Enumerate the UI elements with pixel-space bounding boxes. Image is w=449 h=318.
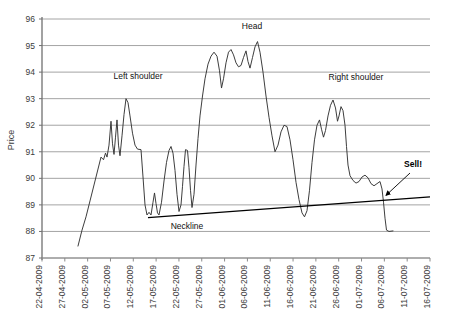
x-tick-label-06-06-2009: 06-06-2009 [239, 265, 249, 309]
chart-container: 96959493929190898887 22-04-200927-04-200… [0, 0, 449, 318]
y-tick-label-90: 90 [26, 173, 36, 183]
x-tick-label-26-06-2009: 26-06-2009 [331, 265, 341, 309]
y-tick-label-93: 93 [26, 94, 36, 104]
x-tick-label-16-06-2009: 16-06-2009 [285, 265, 295, 309]
y-tick-label-92: 92 [26, 120, 36, 130]
annotation-sell: Sell! [404, 159, 422, 169]
y-tick-label-89: 89 [26, 200, 36, 210]
x-tick-label-16-07-2009: 16-07-2009 [422, 265, 432, 309]
head-and-shoulders-price-chart: 96959493929190898887 22-04-200927-04-200… [0, 0, 449, 318]
x-tick-label-06-07-2009: 06-07-2009 [376, 265, 386, 309]
y-tick-label-88: 88 [26, 226, 36, 236]
annotation-neckline: Neckline [171, 221, 204, 231]
y-tick-label-95: 95 [26, 41, 36, 51]
y-tick-label-94: 94 [26, 67, 36, 77]
annotation-left-shoulder: Left shoulder [113, 71, 162, 81]
x-tick-label-02-05-2009: 02-05-2009 [80, 265, 90, 309]
x-tick-label-07-05-2009: 07-05-2009 [102, 265, 112, 309]
annotation-right-shoulder: Right shoulder [329, 72, 384, 82]
y-axis-title: Price [6, 130, 16, 151]
x-tick-label-01-06-2009: 01-06-2009 [217, 265, 227, 309]
x-tick-label-01-07-2009: 01-07-2009 [354, 265, 364, 309]
x-tick-label-21-06-2009: 21-06-2009 [308, 265, 318, 309]
y-tick-label-96: 96 [26, 14, 36, 24]
y-tick-label-91: 91 [26, 147, 36, 157]
x-tick-label-11-07-2009: 11-07-2009 [399, 265, 409, 308]
annotation-head: Head [242, 21, 263, 31]
x-tick-label-27-05-2009: 27-05-2009 [194, 265, 204, 309]
x-tick-label-11-06-2009: 11-06-2009 [262, 265, 272, 308]
y-tick-label-87: 87 [26, 253, 36, 263]
x-tick-label-17-05-2009: 17-05-2009 [148, 265, 158, 309]
x-tick-label-12-05-2009: 12-05-2009 [125, 265, 135, 309]
x-tick-label-27-04-2009: 27-04-2009 [57, 265, 67, 309]
x-tick-label-22-05-2009: 22-05-2009 [171, 265, 181, 309]
x-tick-label-22-04-2009: 22-04-2009 [34, 265, 44, 309]
